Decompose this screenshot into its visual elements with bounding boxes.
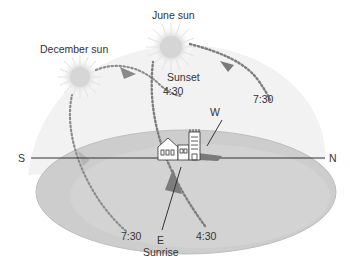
south-label: S — [18, 152, 25, 164]
december-sun-label: December sun — [40, 43, 108, 55]
june-sunrise-time: 4:30 — [196, 230, 217, 242]
sunrise-label: Sunrise — [143, 246, 179, 258]
december-sun-icon — [58, 55, 102, 99]
east-label: E — [157, 234, 164, 246]
north-label: N — [329, 152, 337, 164]
december-sunrise-time: 7:30 — [121, 230, 142, 242]
june-sun-label: June sun — [152, 9, 195, 21]
sun-path-diagram: December sun June sun Sunset 4:30 W 7:30… — [0, 0, 350, 269]
sunset-label: Sunset — [167, 71, 200, 83]
west-label: W — [210, 106, 220, 118]
june-sunset-time: 7:30 — [253, 93, 274, 105]
december-sunset-time: 4:30 — [163, 85, 184, 97]
